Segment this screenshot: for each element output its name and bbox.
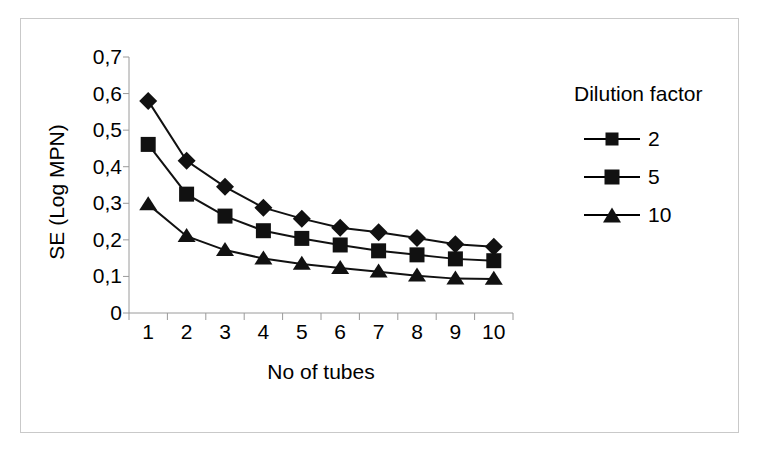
square-marker — [371, 243, 386, 258]
data-series — [139, 92, 503, 256]
diamond-marker — [408, 229, 426, 247]
legend-entry-label: 2 — [648, 128, 660, 150]
y-axis-tick-label: 0,7 — [93, 46, 122, 67]
triangle-marker — [603, 208, 621, 223]
x-axis-title: No of tubes — [129, 360, 513, 384]
square-marker — [294, 231, 309, 246]
legend-entry-label: 10 — [648, 204, 671, 226]
y-axis-title: SE (Log MPN) — [45, 97, 69, 287]
triangle-marker — [139, 196, 157, 210]
series-line — [148, 144, 494, 260]
diamond-marker — [216, 178, 234, 196]
diamond-marker — [254, 199, 272, 217]
diamond-marker — [293, 210, 311, 228]
diamond-marker — [485, 238, 503, 256]
triangle-marker — [485, 271, 503, 285]
figure-container: 0,70,60,50,40,30,20,10 12345678910 No of… — [0, 0, 761, 453]
legend: Dilution factor 2510 — [556, 82, 731, 234]
y-axis-tick-label: 0,3 — [93, 192, 122, 213]
square-marker — [179, 187, 194, 202]
diamond-marker — [606, 133, 619, 146]
diamond-marker — [178, 152, 196, 170]
triangle-marker — [216, 242, 234, 256]
legend-entry[interactable]: 2 — [556, 120, 731, 158]
legend-sample — [584, 166, 640, 188]
data-series — [141, 137, 502, 268]
legend-entry-label: 5 — [648, 166, 660, 188]
square-marker — [333, 237, 348, 252]
y-axis-tick-label: 0,4 — [93, 156, 122, 177]
y-axis-tick-label: 0,5 — [93, 119, 122, 140]
y-axis-tick-label: 0 — [110, 302, 122, 323]
square-marker — [218, 209, 233, 224]
legend-sample — [584, 204, 640, 226]
x-axis-tick-label: 10 — [470, 320, 518, 343]
series-layer — [139, 92, 503, 285]
diamond-marker — [331, 219, 349, 237]
y-axis-tick-label: 0,2 — [93, 229, 122, 250]
y-axis-tick-label: 0,1 — [93, 265, 122, 286]
legend-entry[interactable]: 5 — [556, 158, 731, 196]
legend-title: Dilution factor — [556, 82, 731, 106]
square-marker — [141, 137, 156, 152]
data-series — [139, 196, 503, 285]
legend-sample — [584, 128, 640, 150]
x-axis-tick-labels: 12345678910 — [129, 320, 513, 350]
diamond-marker — [370, 223, 388, 241]
y-axis-tick-label: 0,6 — [93, 83, 122, 104]
square-marker — [256, 223, 271, 238]
square-marker — [486, 253, 501, 268]
series-line — [148, 101, 494, 247]
square-marker — [605, 170, 620, 185]
diamond-marker — [446, 235, 464, 253]
legend-entry[interactable]: 10 — [556, 196, 731, 234]
square-marker — [410, 247, 425, 262]
diamond-marker — [139, 92, 157, 110]
legend-entries: 2510 — [556, 120, 731, 234]
square-marker — [448, 251, 463, 266]
